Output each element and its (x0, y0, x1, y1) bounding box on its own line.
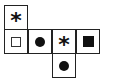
open-square-icon (11, 37, 21, 47)
filled-circle-icon (35, 37, 45, 47)
face-bottom-circle (52, 53, 76, 78)
face-circle (28, 29, 52, 54)
face-top-star: * (4, 5, 28, 30)
filled-square-icon (83, 36, 94, 47)
face-open-square (4, 29, 28, 54)
face-filled-square (76, 29, 100, 54)
face-star: * (52, 29, 76, 54)
filled-circle-icon (59, 61, 69, 71)
